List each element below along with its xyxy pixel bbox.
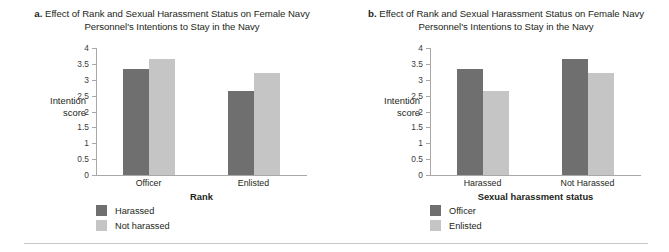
panel-a-y-tick-mark [92,96,97,97]
legend-swatch-icon [96,205,107,216]
panel-a-y-tick-mark [92,159,97,160]
legend-item[interactable]: Enlisted [430,218,482,233]
panel-a-y-axis-title-line1: Intention [8,95,86,107]
bar-harassed-officer [457,69,483,175]
panel-a-letter: a. [34,8,42,19]
panel-b-category-label: Harassed [423,178,543,188]
panel-b-y-tick-label: 3 [418,76,423,84]
panel-b-y-tick-mark [426,64,431,65]
panel-b-x-axis-title: Sexual harassment status [430,191,641,202]
panel-b-y-tick-label: 2 [418,107,423,115]
bar-officer-not-harassed [149,59,175,175]
panel-b-y-tick-mark [426,112,431,113]
panel-b-y-tick-mark [426,127,431,128]
panel-b-legend: OfficerEnlisted [430,203,482,233]
legend-label: Enlisted [449,221,482,231]
panel-a-x-axis-title: Rank [96,191,307,202]
bar-not-harassed-officer [562,59,588,175]
bar-harassed-enlisted [483,91,509,175]
panel-a-category-label: Enlisted [194,178,314,188]
panel-a-y-tick-label: 2 [84,107,89,115]
panel-b-caption-line2: Personnel's Intentions to Stay in the Na… [356,20,656,33]
panel-b-y-tick-mark [426,159,431,160]
panel-a-y-axis-title: Intention score [8,95,86,118]
panel-a-y-tick-mark [92,143,97,144]
panel-a-caption-line2: Personnel's Intentions to Stay in the Na… [22,20,322,33]
panel-b-y-tick-mark [426,48,431,49]
bar-enlisted-not-harassed [254,73,280,175]
bar-enlisted-harassed [228,91,254,175]
panel-b-plot-area: 00.511.522.533.54 [430,48,640,175]
legend-swatch-icon [430,205,441,216]
panel-b-y-tick-mark [426,143,431,144]
panel-b-x-axis-line [430,175,641,176]
panel-a-caption: a. Effect of Rank and Sexual Harassment … [22,7,322,33]
legend-label: Harassed [115,206,154,216]
legend-label: Not harassed [115,221,170,231]
panel-b-caption: b. Effect of Rank and Sexual Harassment … [356,7,656,33]
panel-a-y-tick-mark [92,64,97,65]
panel-b-y-tick-mark [426,175,431,176]
panel-b-y-tick-mark [426,96,431,97]
panel-a-y-axis-title-line2: score [8,107,86,119]
panel-b-y-tick-label: 1 [418,139,423,147]
panel-b-y-tick-label: 3.5 [411,60,423,68]
legend-swatch-icon [96,220,107,231]
panel-a-y-tick-mark [92,127,97,128]
panel-a-y-tick-label: 1 [84,139,89,147]
chart-panel-a: a. Effect of Rank and Sexual Harassment … [0,0,334,240]
legend-swatch-icon [430,220,441,231]
panel-a-y-tick-mark [92,175,97,176]
panel-a-x-axis-line [96,175,307,176]
panel-a-y-tick-mark [92,112,97,113]
panel-b-y-axis-title-line2: score [342,107,420,119]
panel-a-y-tick-label: 2.5 [77,91,89,99]
panel-b-caption-line1: Effect of Rank and Sexual Harassment Sta… [379,8,644,19]
legend-item[interactable]: Not harassed [96,218,170,233]
panel-b-y-tick-label: 0.5 [411,155,423,163]
panel-a-category-label: Officer [89,178,209,188]
panel-a-y-tick-label: 0.5 [77,155,89,163]
panel-a-y-tick-mark [92,80,97,81]
chart-panel-b: b. Effect of Rank and Sexual Harassment … [334,0,668,240]
panel-b-y-tick-label: 1.5 [411,123,423,131]
figure: a. Effect of Rank and Sexual Harassment … [0,0,669,252]
panel-b-y-axis-title-line1: Intention [342,95,420,107]
panel-b-category-label: Not Harassed [528,178,648,188]
panel-a-y-tick-label: 3 [84,76,89,84]
panel-b-y-tick-label: 2.5 [411,91,423,99]
panel-b-y-axis-title: Intention score [342,95,420,118]
panel-b-letter: b. [368,8,377,19]
panel-b-y-tick-mark [426,80,431,81]
panel-a-y-tick-mark [92,48,97,49]
panel-a-y-tick-label: 1.5 [77,123,89,131]
panel-a-caption-line1: Effect of Rank and Sexual Harassment Sta… [45,8,310,19]
panel-a-plot-area: 00.511.522.533.54 [96,48,306,175]
panel-a-y-tick-label: 4 [84,44,89,52]
bar-officer-harassed [123,69,149,175]
panel-b-y-tick-label: 4 [418,44,423,52]
bar-not-harassed-enlisted [588,73,614,175]
legend-item[interactable]: Officer [430,203,482,218]
legend-label: Officer [449,206,476,216]
panel-a-y-tick-label: 3.5 [77,60,89,68]
bottom-divider [24,243,648,244]
legend-item[interactable]: Harassed [96,203,170,218]
panel-a-legend: HarassedNot harassed [96,203,170,233]
